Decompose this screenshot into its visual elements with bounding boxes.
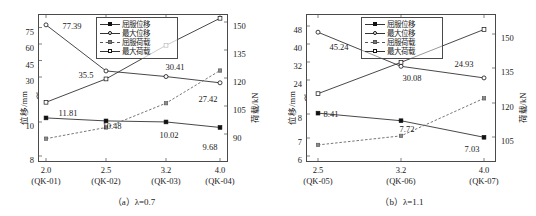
chart-panel-a: 8 10 30 45 60 75 ⌇ 90 105 120 135 150 2.… — [0, 0, 268, 216]
x-tick-a-3: 4.0 (QK-04) — [205, 165, 234, 186]
x-tick-a-2-value: 3.2 — [151, 165, 180, 176]
y2-axis-title-a: 荷载/kN — [249, 93, 261, 124]
x-tick-a-0-value: 2.0 — [31, 165, 60, 176]
open-circle-marker-icon — [100, 29, 120, 38]
data-label-b-yield-disp-1: 7.72 — [400, 125, 415, 134]
y-tick-b-4: 32 — [294, 62, 303, 71]
legend-item-a-3: 最大荷载 — [100, 47, 173, 56]
data-label-a-yield-disp-0: 11.81 — [59, 109, 78, 118]
y2-tick-b-0: 105 — [501, 137, 514, 146]
open-square-marker-icon — [365, 47, 385, 56]
panel-caption-b: （b）λ=1.1 — [268, 195, 536, 208]
x-tick-a-2: 3.2 (QK-03) — [151, 165, 180, 186]
axis-break-b: ⌇ — [303, 94, 307, 103]
legend-label-b-2: 屈服荷载 — [387, 38, 415, 47]
x-tick-b-2: 4.0 (QK-07) — [469, 165, 498, 186]
data-label-a-yield-disp-1: 10.48 — [102, 122, 121, 131]
x-tick-a-1-name: (QK-02) — [91, 176, 120, 187]
data-label-a-max-disp-2: 30.41 — [165, 63, 184, 72]
open-circle-marker-icon — [365, 29, 385, 38]
data-label-a-yield-disp-2: 10.02 — [159, 131, 178, 140]
legend-label-b-1: 最大位移 — [387, 29, 415, 38]
y2-tick-a-3: 135 — [233, 50, 246, 59]
x-tick-a-0: 2.0 (QK-01) — [31, 165, 60, 186]
y-axis-title-b: 位移/mm — [285, 91, 297, 125]
data-label-a-max-disp-0: 77.39 — [62, 22, 81, 31]
y-tick-a-2: 30 — [26, 77, 35, 86]
data-label-a-max-disp-1: 35.5 — [79, 71, 94, 80]
legend-label-b-3: 最大荷载 — [387, 47, 415, 56]
legend-item-a-0: 屈服位移 — [100, 20, 173, 29]
y-tick-b-2: 8 — [298, 114, 302, 123]
data-label-a-max-disp-3: 27.42 — [198, 95, 217, 104]
x-tick-b-2-name: (QK-07) — [469, 176, 498, 187]
y-tick-a-5: 75 — [26, 28, 35, 37]
filled-square-marker-icon — [100, 20, 120, 29]
x-tick-a-2-name: (QK-03) — [151, 176, 180, 187]
x-tick-a-0-name: (QK-01) — [31, 176, 60, 187]
axis-break-a: ⌇ — [35, 92, 39, 101]
x-tick-b-0-value: 2.5 — [303, 165, 332, 176]
shaded-square-marker-icon — [100, 38, 120, 47]
legend-item-b-0: 屈服位移 — [365, 20, 438, 29]
legend-b: 屈服位移 最大位移 屈服荷载 最大荷载 — [361, 17, 443, 59]
data-label-b-max-disp-2: 24.93 — [454, 60, 473, 69]
plot-area-a: 8 10 30 45 60 75 ⌇ 90 105 120 135 150 2.… — [38, 14, 228, 162]
legend-label-a-1: 最大位移 — [122, 29, 150, 38]
y2-tick-a-0: 90 — [233, 134, 242, 143]
y2-tick-a-4: 150 — [233, 22, 246, 31]
x-tick-b-0-name: (QK-05) — [303, 176, 332, 187]
legend-item-a-2: 屈服荷载 — [100, 38, 173, 47]
plot-area-b: 6 7 8 24 32 40 48 ⌇ 105 120 135 150 2.5 … — [306, 14, 496, 162]
y2-tick-b-1: 120 — [501, 103, 514, 112]
y-axis-title-a: 位移/mm — [17, 91, 29, 125]
y2-tick-b-3: 150 — [501, 34, 514, 43]
x-tick-b-1: 3.2 (QK-06) — [386, 165, 415, 186]
data-label-a-yield-disp-3: 9.68 — [203, 143, 218, 152]
x-tick-a-3-value: 4.0 — [205, 165, 234, 176]
legend-item-b-2: 屈服荷载 — [365, 38, 438, 47]
open-square-marker-icon — [100, 47, 120, 56]
y-tick-b-1: 7 — [298, 138, 302, 147]
y-tick-a-0: 8 — [30, 156, 34, 165]
x-tick-a-3-name: (QK-04) — [205, 176, 234, 187]
data-label-b-yield-disp-2: 7.03 — [465, 145, 480, 154]
legend-label-a-0: 屈服位移 — [122, 20, 150, 29]
y-tick-b-0: 6 — [298, 156, 302, 165]
legend-label-a-2: 屈服荷载 — [122, 38, 150, 47]
filled-square-marker-icon — [365, 20, 385, 29]
x-tick-a-1-value: 2.5 — [91, 165, 120, 176]
data-label-b-max-disp-1: 30.08 — [402, 74, 421, 83]
legend-item-b-1: 最大位移 — [365, 29, 438, 38]
x-tick-b-0: 2.5 (QK-05) — [303, 165, 332, 186]
y-tick-b-3: 24 — [294, 80, 303, 89]
legend-a: 屈服位移 最大位移 屈服荷载 最大荷载 — [96, 17, 178, 59]
y-tick-b-6: 48 — [294, 26, 303, 35]
legend-label-a-3: 最大荷载 — [122, 47, 150, 56]
x-tick-a-1: 2.5 (QK-02) — [91, 165, 120, 186]
legend-item-a-1: 最大位移 — [100, 29, 173, 38]
legend-item-b-3: 最大荷载 — [365, 47, 438, 56]
y-tick-a-4: 60 — [26, 44, 35, 53]
panel-caption-a: （a）λ=0.7 — [0, 195, 268, 208]
data-label-b-max-disp-0: 45.24 — [329, 43, 348, 52]
x-tick-b-1-value: 3.2 — [386, 165, 415, 176]
legend-label-b-0: 屈服位移 — [387, 20, 415, 29]
shaded-square-marker-icon — [365, 38, 385, 47]
chart-panel-b: 6 7 8 24 32 40 48 ⌇ 105 120 135 150 2.5 … — [268, 0, 536, 216]
y2-tick-a-1: 105 — [233, 106, 246, 115]
y-tick-b-5: 40 — [294, 44, 303, 53]
y2-axis-title-b: 荷载/kN — [517, 93, 529, 124]
y-tick-a-3: 45 — [26, 61, 35, 70]
y2-tick-b-2: 135 — [501, 68, 514, 77]
x-tick-b-1-name: (QK-06) — [386, 176, 415, 187]
y2-tick-a-2: 120 — [233, 78, 246, 87]
x-tick-b-2-value: 4.0 — [469, 165, 498, 176]
data-label-b-yield-disp-0: 8.41 — [324, 110, 339, 119]
figure-container: 8 10 30 45 60 75 ⌇ 90 105 120 135 150 2.… — [0, 0, 536, 216]
